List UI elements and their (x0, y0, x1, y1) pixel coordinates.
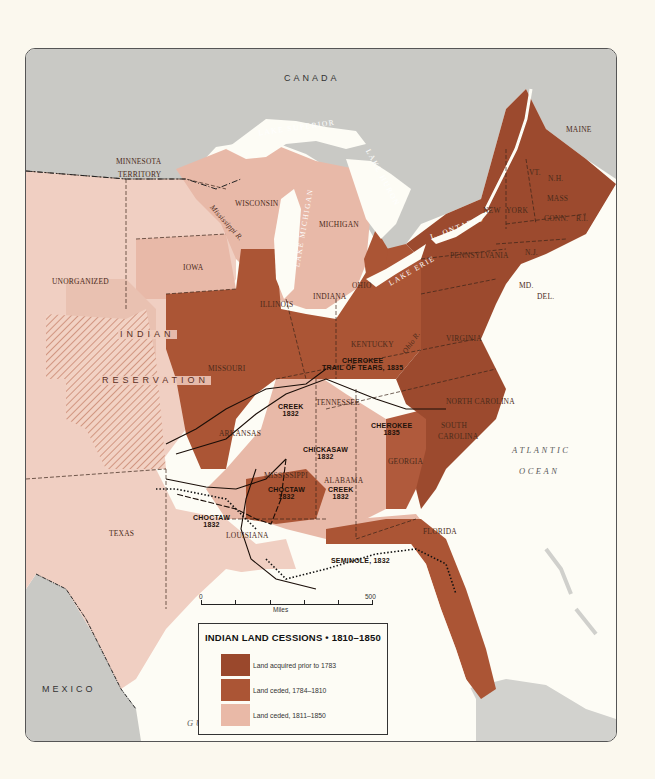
label-michigan: MICHIGAN (319, 221, 359, 229)
label-conn: CONN. (544, 215, 568, 223)
label-del: DEL. (537, 293, 554, 301)
label-unorganized: UNORGANIZED (52, 278, 109, 286)
label-iowa: IOWA (183, 264, 203, 272)
label-nj: N.J. (525, 249, 538, 257)
label-reservation: RESERVATION (100, 376, 211, 385)
legend-swatch-dark (221, 654, 250, 676)
legend: INDIAN LAND CESSIONS • 1810–1850 Land ac… (198, 623, 388, 735)
label-texas: TEXAS (109, 530, 134, 538)
label-creek-1: CREEK1832 (278, 403, 304, 417)
label-florida: FLORIDA (423, 528, 457, 536)
label-georgia: GEORGIA (388, 458, 423, 466)
label-new: NEW (483, 207, 501, 215)
label-indiana: INDIANA (313, 293, 346, 301)
label-cherokee-1835: CHEROKEE1835 (371, 422, 412, 436)
legend-item-1811-1850: Land ceded, 1811–1850 (221, 704, 326, 726)
label-missouri: MISSOURI (208, 365, 245, 373)
label-atlantic: ATLANTIC (512, 446, 570, 455)
scale-line (201, 604, 373, 605)
legend-item-prior-1783: Land acquired prior to 1783 (221, 654, 336, 676)
label-ohio: OHIO (352, 282, 372, 290)
label-territory: TERRITORY (118, 171, 161, 179)
label-mexico: MEXICO (42, 685, 96, 694)
label-ri: R.I. (576, 215, 588, 223)
label-kentucky: KENTUCKY (351, 341, 394, 349)
label-arkansas: ARKANSAS (219, 430, 261, 438)
label-south: SOUTH (441, 422, 467, 430)
legend-title: INDIAN LAND CESSIONS • 1810–1850 (199, 632, 387, 643)
label-york: YORK (506, 207, 528, 215)
label-md: MD. (519, 282, 534, 290)
bahamas (546, 549, 596, 634)
map-frame: CANADA MEXICO LAKE SUPERIOR LAKE MICHIGA… (25, 48, 617, 742)
legend-swatch-medium (221, 679, 250, 701)
label-choctaw-1: CHOCTAW1832 (268, 486, 305, 500)
label-mississippi: MISSISSIPPI (264, 472, 308, 480)
label-choctaw-2: CHOCTAW1832 (193, 514, 230, 528)
label-north-carolina: NORTH CAROLINA (446, 398, 515, 406)
label-virginia: VIRGINIA (446, 335, 482, 343)
label-pennsylvania: PENNSYLVANIA (450, 252, 509, 260)
label-louisiana: LOUISIANA (226, 532, 269, 540)
legend-swatch-light (221, 704, 250, 726)
label-illinois: ILLINOIS (260, 301, 293, 309)
label-nh: N.H. (548, 175, 563, 183)
legend-item-1784-1810: Land ceded, 1784–1810 (221, 679, 326, 701)
label-alabama: ALABAMA (324, 477, 363, 485)
label-carolina: CAROLINA (438, 433, 478, 441)
label-ocean: OCEAN (519, 467, 559, 476)
label-maine: MAINE (566, 126, 592, 134)
label-chickasaw: CHICKASAW1832 (303, 446, 348, 460)
label-indian: INDIAN (118, 330, 177, 339)
label-creek-2: CREEK1832 (328, 486, 354, 500)
scale-end: 500 (365, 593, 376, 600)
scale-unit: Miles (273, 606, 288, 613)
label-mass: MASS (547, 195, 568, 203)
scale-start: 0 (199, 593, 203, 600)
label-seminole: SEMINOLE, 1832 (331, 557, 390, 564)
label-minnesota: MINNESOTA (116, 158, 161, 166)
label-canada: CANADA (284, 74, 340, 83)
scale-bar: 0 500 Miles (201, 596, 373, 618)
label-vt: VT. (529, 169, 541, 177)
label-cherokee-trail: CHEROKEETRAIL OF TEARS, 1835 (322, 357, 403, 371)
label-tennessee: TENNESSEE (316, 399, 360, 407)
label-wisconsin: WISCONSIN (235, 200, 278, 208)
